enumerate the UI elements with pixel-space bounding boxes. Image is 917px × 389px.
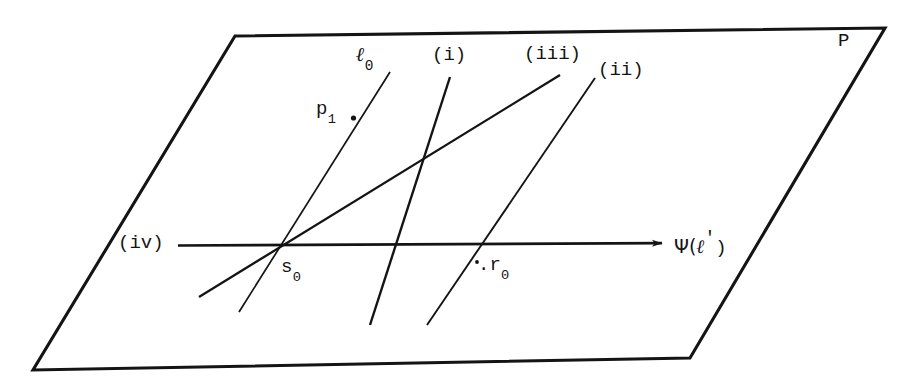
psi-glyph: Ψ( [674, 235, 696, 257]
point-s0-subscript: 0 [293, 270, 301, 285]
script-ell-glyph: ℓ [356, 42, 365, 66]
axis-psi-label: Ψ(ℓ') [674, 232, 727, 258]
line-i-segment [370, 77, 450, 325]
point-p1-base: p [316, 98, 327, 120]
axis-line [178, 243, 662, 245]
line-i [370, 77, 450, 325]
plane-boundary [33, 28, 885, 370]
point-r0-label: .r0 [478, 256, 509, 278]
line-l0-subscript: 0 [365, 58, 374, 74]
axis-psi-l-prime [178, 243, 662, 245]
case-ii-label: (ii) [598, 61, 644, 80]
line-ii-segment [427, 78, 595, 325]
line-l0 [239, 72, 390, 312]
point-p1-dot [351, 115, 356, 120]
line-l0-label: ℓ0 [356, 44, 373, 69]
case-iii-label: (iii) [524, 45, 581, 64]
plane-outline [33, 28, 885, 370]
line-l0-segment [239, 72, 390, 312]
case-iv-label: (iv) [118, 234, 164, 253]
point-r0-base: .r [478, 254, 501, 276]
axis-script-ell-glyph: ℓ [696, 235, 704, 257]
case-i-label: (i) [432, 46, 466, 65]
line-ii [427, 78, 595, 325]
point-s0-base: s [281, 256, 292, 278]
plane-label: P [838, 32, 849, 51]
point-p1-label: p1 [316, 100, 336, 122]
axis-paren-close: ) [715, 237, 726, 259]
point-p1-subscript: 1 [328, 112, 336, 127]
point-s0-label: s0 [281, 258, 301, 280]
point-r0-subscript: 0 [501, 268, 509, 283]
axis-prime-glyph: ' [705, 228, 716, 248]
